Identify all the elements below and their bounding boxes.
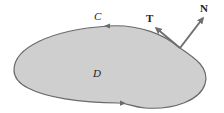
normal-vector-arrow <box>180 18 203 48</box>
diagram-canvas: C D T N <box>0 0 224 113</box>
normal-label-n: N <box>200 2 208 14</box>
curve-label-c: C <box>94 10 102 22</box>
tangent-label-t: T <box>146 12 154 24</box>
region-label-d: D <box>92 67 101 79</box>
region-d-shape <box>14 26 206 108</box>
